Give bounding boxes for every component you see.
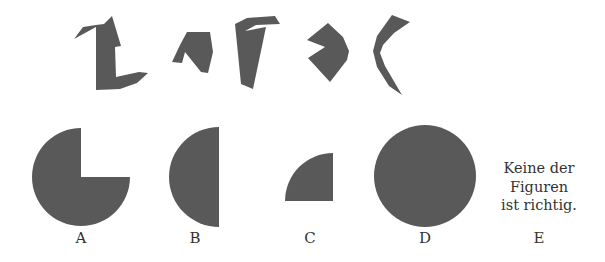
piece-5 [373,15,410,95]
piece-4 [307,23,349,82]
option-e-line-1: Keine der [501,159,577,178]
option-d-shape[interactable] [374,125,476,227]
option-c-label[interactable]: C [304,231,315,246]
option-e-line-2: Figuren [501,178,577,197]
option-a-shape[interactable] [32,128,130,226]
piece-2 [172,32,213,73]
option-b-label[interactable]: B [189,231,200,246]
options-group [32,125,476,227]
option-b-shape[interactable] [169,127,219,227]
piece-3 [235,16,280,89]
option-e-line-3: ist richtig. [501,196,577,215]
option-d-label[interactable]: D [419,231,431,246]
option-c-shape[interactable] [285,153,333,201]
puzzle-figure [0,0,605,262]
pieces-group [74,15,410,95]
piece-1 [74,16,148,90]
option-e-text[interactable]: Keine der Figuren ist richtig. [501,159,577,215]
option-a-label[interactable]: A [76,231,87,246]
option-e-label[interactable]: E [534,231,545,246]
